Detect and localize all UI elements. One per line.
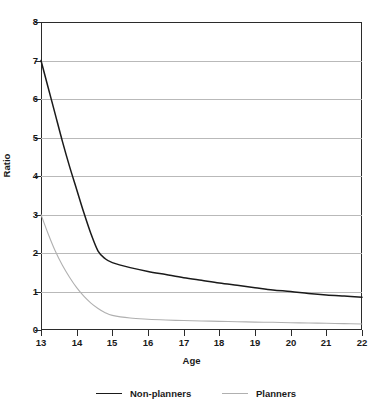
x-tick-mark (148, 330, 149, 336)
x-tick-label: 15 (100, 338, 124, 348)
gridline (41, 292, 362, 293)
legend-line-swatch (96, 393, 122, 394)
y-tick-label: 4 (18, 171, 38, 181)
gridline (41, 176, 362, 177)
x-tick-label: 21 (314, 338, 338, 348)
legend-entry-non-planners[interactable]: Non-planners (96, 386, 191, 400)
x-tick-mark (184, 330, 185, 336)
x-tick-mark (112, 330, 113, 336)
legend-label: Planners (256, 388, 296, 399)
legend-line-swatch (222, 393, 248, 394)
ratio-by-age-chart: 012345678 13141516171819202122 Ratio Age… (0, 0, 383, 410)
x-tick-label: 17 (172, 338, 196, 348)
y-tick-label: 7 (18, 56, 38, 66)
y-tick-label: 2 (18, 248, 38, 258)
y-tick-label: 8 (18, 17, 38, 27)
x-tick-mark (41, 330, 42, 336)
y-tick-label: 5 (18, 133, 38, 143)
y-tick-label: 3 (18, 210, 38, 220)
x-tick-label: 22 (350, 338, 374, 348)
y-tick-label: 6 (18, 94, 38, 104)
gridline (41, 61, 362, 62)
y-tick-label: 1 (18, 287, 38, 297)
x-tick-mark (77, 330, 78, 336)
x-tick-mark (255, 330, 256, 336)
gridline (41, 253, 362, 254)
x-tick-label: 19 (243, 338, 267, 348)
x-tick-label: 13 (29, 338, 53, 348)
x-tick-mark (219, 330, 220, 336)
legend-entry-planners[interactable]: Planners (222, 386, 296, 400)
x-tick-mark (362, 330, 363, 336)
x-tick-label: 18 (207, 338, 231, 348)
gridline (41, 215, 362, 216)
gridline (41, 138, 362, 139)
x-tick-label: 20 (279, 338, 303, 348)
y-tick-label: 0 (18, 325, 38, 335)
x-tick-mark (291, 330, 292, 336)
y-axis-title: Ratio (1, 154, 12, 178)
x-tick-mark (326, 330, 327, 336)
legend-label: Non-planners (130, 388, 191, 399)
x-tick-label: 14 (65, 338, 89, 348)
gridline (41, 99, 362, 100)
chart-legend: Non-plannersPlanners (0, 386, 383, 404)
x-axis-title: Age (0, 355, 383, 366)
x-tick-label: 16 (136, 338, 160, 348)
